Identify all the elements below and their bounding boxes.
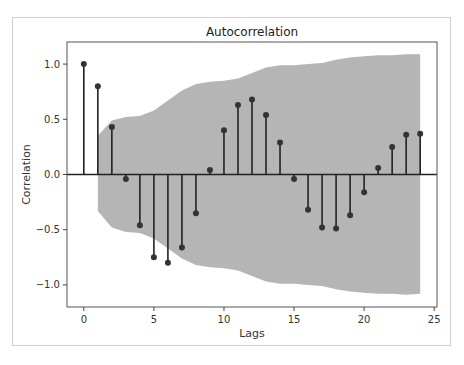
marker-lag-22: [389, 144, 395, 150]
x-tick-label: 25: [428, 314, 441, 325]
y-ticks: −1.0−0.50.00.51.0: [36, 59, 67, 291]
x-tick-label: 15: [288, 314, 301, 325]
marker-lag-11: [235, 102, 241, 108]
x-tick-label: 10: [218, 314, 231, 325]
x-tick-label: 20: [358, 314, 371, 325]
marker-lag-14: [277, 139, 283, 145]
x-tick-label: 5: [151, 314, 157, 325]
marker-lag-7: [179, 244, 185, 250]
y-tick-label: −0.5: [36, 224, 60, 235]
marker-lag-24: [417, 131, 423, 137]
marker-lag-23: [403, 132, 409, 138]
marker-lag-13: [263, 112, 269, 118]
x-tick-label: 0: [81, 314, 87, 325]
marker-lag-10: [221, 127, 227, 133]
marker-lag-12: [249, 96, 255, 102]
marker-lag-0: [81, 61, 87, 67]
marker-lag-16: [305, 207, 311, 213]
y-axis-label: Correlation: [20, 144, 33, 205]
marker-lag-18: [333, 226, 339, 232]
acf-chart: 0510152025 −1.0−0.50.00.51.0 Autocorrela…: [0, 0, 464, 365]
marker-lag-1: [95, 83, 101, 89]
marker-lag-21: [375, 165, 381, 171]
chart-title: Autocorrelation: [206, 25, 298, 39]
y-tick-label: 0.5: [44, 114, 60, 125]
marker-lag-5: [151, 254, 157, 260]
marker-lag-4: [137, 222, 143, 228]
x-axis-label: Lags: [239, 327, 265, 340]
marker-lag-8: [193, 210, 199, 216]
marker-lag-2: [109, 124, 115, 130]
marker-lag-15: [291, 176, 297, 182]
y-tick-label: 1.0: [44, 59, 60, 70]
marker-lag-17: [319, 225, 325, 231]
y-tick-label: −1.0: [36, 279, 60, 290]
marker-lag-19: [347, 212, 353, 218]
marker-lag-20: [361, 189, 367, 195]
x-ticks: 0510152025: [81, 307, 441, 325]
marker-lag-9: [207, 167, 213, 173]
marker-lag-3: [123, 176, 129, 182]
y-tick-label: 0.0: [44, 169, 60, 180]
marker-lag-6: [165, 260, 171, 266]
